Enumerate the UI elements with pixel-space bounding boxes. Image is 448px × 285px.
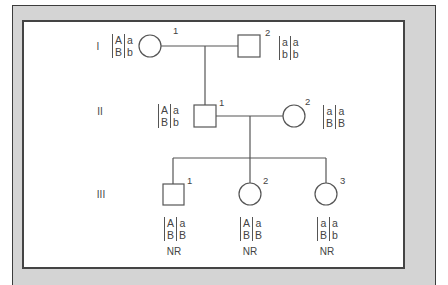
generation-label-III: III: [97, 189, 105, 200]
individual-I1-female-symbol: [139, 35, 161, 57]
genotype-III3: aB ab: [315, 217, 338, 241]
generation-label-I: I: [97, 41, 100, 52]
individual-I2-number: 2: [265, 27, 270, 38]
individual-I1-number: 1: [173, 25, 178, 36]
individual-III1-number: 1: [187, 175, 192, 186]
individual-III1-male-symbol: [163, 184, 184, 205]
individual-III2-number: 2: [263, 175, 268, 186]
status-III2: NR: [243, 246, 257, 257]
individual-III2-female-symbol: [239, 183, 261, 205]
genotype-II1: AB ab: [156, 104, 179, 128]
individual-III3-female-symbol: [315, 183, 337, 205]
genotype-I2: ab ab: [277, 36, 299, 60]
individual-III3-number: 3: [340, 175, 345, 186]
individual-II2-female-symbol: [283, 105, 305, 127]
individual-II2-number: 2: [305, 96, 310, 107]
generation-label-II: II: [97, 106, 103, 117]
genotype-II2: aB aB: [321, 105, 345, 129]
genotype-I1: AB ab: [110, 34, 133, 58]
status-III3: NR: [320, 246, 334, 257]
individual-II1-number: 1: [219, 97, 224, 108]
status-III1: NR: [167, 246, 181, 257]
individual-II1-male-symbol: [194, 105, 216, 127]
individual-I2-male-symbol: [238, 35, 260, 57]
genotype-III1: AB aB: [162, 217, 186, 241]
genotype-III2: AB aB: [238, 217, 262, 241]
